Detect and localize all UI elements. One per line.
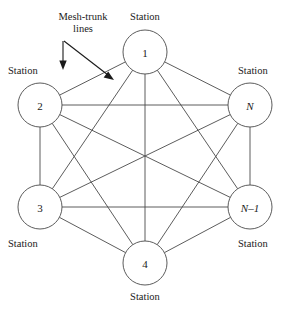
station-node-n1[interactable]: N–1	[228, 185, 272, 229]
station-caption-top-left: Station	[8, 65, 38, 77]
mesh-trunk-line	[52, 123, 133, 244]
station-caption-top-right: Station	[238, 65, 268, 77]
mesh-trunk-lines-label-line1: Mesh-trunk	[40, 11, 126, 23]
station-node-2[interactable]: 2	[18, 83, 62, 127]
mesh-trunk-line	[59, 217, 125, 252]
mesh-trunk-line	[157, 70, 237, 189]
annotation-arrow-vertical-head	[59, 61, 66, 71]
station-node-label: 2	[37, 100, 43, 112]
mesh-trunk-line	[157, 123, 238, 244]
station-node-n[interactable]: N	[228, 83, 272, 127]
station-node-label: N–1	[240, 202, 259, 214]
mesh-trunk-lines-label-line2: lines	[40, 23, 126, 35]
station-node-1[interactable]: 1	[123, 30, 167, 74]
station-caption-bottom: Station	[115, 291, 175, 303]
mesh-trunk-line	[165, 62, 231, 95]
station-node-label: 3	[37, 202, 43, 214]
mesh-network-diagram: 1234N–1N Mesh-trunk lines Station Statio…	[0, 0, 288, 315]
mesh-trunk-line	[164, 217, 230, 252]
station-caption-top: Station	[115, 11, 175, 23]
mesh-trunk-lines-label: Mesh-trunk lines	[40, 11, 126, 35]
station-node-label: 1	[142, 47, 148, 59]
station-caption-bottom-left: Station	[8, 238, 38, 250]
station-node-label: N	[245, 100, 254, 112]
annotation-arrow-diagonal-shaft	[64, 41, 108, 75]
edge-group	[40, 62, 250, 253]
mesh-trunk-annotation-arrows	[59, 41, 114, 80]
station-caption-bottom-right: Station	[238, 238, 268, 250]
mesh-trunk-line	[60, 62, 126, 95]
station-node-label: 4	[142, 258, 148, 270]
station-node-3[interactable]: 3	[18, 185, 62, 229]
diagram-canvas: 1234N–1N	[0, 0, 288, 315]
station-node-4[interactable]: 4	[123, 241, 167, 285]
mesh-trunk-line	[52, 70, 132, 189]
